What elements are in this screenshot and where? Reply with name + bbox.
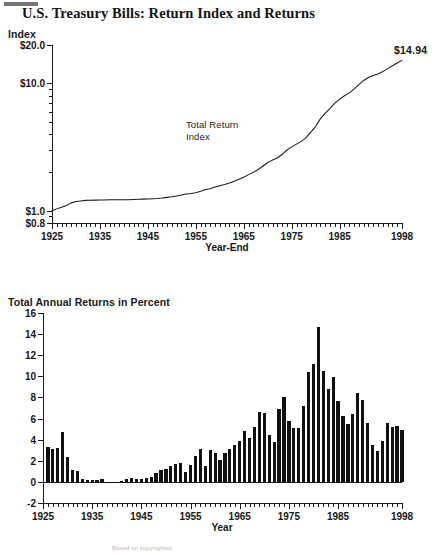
line-x-minor-tick <box>368 223 369 227</box>
bar-x-minor-tick <box>299 503 300 507</box>
bar-x-tick-label: 1975 <box>278 511 300 522</box>
bar <box>135 479 138 482</box>
line-y-minor-tick <box>49 150 52 151</box>
bar-y-tick <box>38 461 43 462</box>
bar <box>238 441 241 482</box>
bar-y-tick-label: 2 <box>30 455 36 466</box>
bar-x-minor-tick <box>77 503 78 507</box>
line-x-minor-tick <box>273 223 274 227</box>
line-x-minor-tick <box>162 223 163 227</box>
end-value-label: $14.94 <box>394 44 427 56</box>
line-x-tick <box>100 223 101 229</box>
bar-x-minor-tick <box>264 503 265 507</box>
line-x-minor-tick <box>220 223 221 227</box>
bar-x-minor-tick <box>323 503 324 507</box>
line-x-minor-tick <box>86 223 87 227</box>
bar <box>361 400 364 482</box>
bar-x-tick-label: 1985 <box>327 511 349 522</box>
bar <box>292 428 295 482</box>
bar <box>194 456 197 482</box>
bar <box>395 426 398 482</box>
bar-x-minor-tick <box>112 503 113 507</box>
bar-x-tick <box>43 503 44 509</box>
footnote: Based on copyrighted <box>112 545 442 554</box>
line-x-minor-tick <box>287 223 288 227</box>
line-y-tick-label: $10.0 <box>20 78 45 89</box>
bar <box>391 427 394 482</box>
bar <box>199 449 202 482</box>
bar <box>248 438 251 482</box>
bar-y-tick-label: 16 <box>25 308 36 319</box>
line-x-tick <box>148 223 149 229</box>
bar-x-minor-tick <box>205 503 206 507</box>
bar-x-minor-tick <box>151 503 152 507</box>
line-x-minor-tick <box>110 223 111 227</box>
bar <box>105 482 108 483</box>
bar-x-tick-label: 1925 <box>32 511 54 522</box>
bar <box>66 457 69 482</box>
bar-x-minor-tick <box>304 503 305 507</box>
line-x-minor-tick <box>277 223 278 227</box>
bar-x-minor-tick <box>200 503 201 507</box>
line-x-minor-tick <box>258 223 259 227</box>
line-x-tick <box>402 223 403 229</box>
line-x-tick <box>340 223 341 229</box>
bar-x-minor-tick <box>250 503 251 507</box>
line-x-minor-tick <box>143 223 144 227</box>
bar <box>214 453 217 482</box>
bar-x-minor-tick <box>225 503 226 507</box>
line-x-minor-tick <box>177 223 178 227</box>
line-x-tick-label: 1965 <box>233 231 255 242</box>
bar <box>86 480 89 482</box>
bar <box>209 450 212 482</box>
bar <box>317 327 320 482</box>
bar-y-tick-label: 4 <box>30 434 36 445</box>
line-x-tick-label: 1975 <box>281 231 303 242</box>
bar <box>336 401 339 482</box>
line-y-minor-tick <box>49 96 52 97</box>
bar <box>76 471 79 482</box>
line-x-minor-tick <box>359 223 360 227</box>
line-x-tick-label: 1935 <box>89 231 111 242</box>
line-x-minor-tick <box>349 223 350 227</box>
bar-x-tick-label: 1935 <box>81 511 103 522</box>
bar-x-minor-tick <box>132 503 133 507</box>
bar-x-minor-tick <box>161 503 162 507</box>
line-x-minor-tick <box>71 223 72 227</box>
bar-x-minor-tick <box>245 503 246 507</box>
bar <box>341 416 344 481</box>
bar <box>228 449 231 482</box>
bar-y-tick <box>38 334 43 335</box>
bar-y-tick <box>38 313 43 314</box>
line-x-axis-title: Year-End <box>205 242 248 253</box>
line-x-minor-tick <box>157 223 158 227</box>
bar <box>400 430 403 482</box>
line-x-minor-tick <box>191 223 192 227</box>
bar-x-tick <box>141 503 142 509</box>
line-x-minor-tick <box>316 223 317 227</box>
bar-x-minor-tick <box>210 503 211 507</box>
bar <box>243 431 246 482</box>
line-x-minor-tick <box>306 223 307 227</box>
bar-x-tick <box>191 503 192 509</box>
line-x-minor-tick <box>95 223 96 227</box>
bar-x-tick <box>402 503 403 509</box>
line-x-minor-tick <box>297 223 298 227</box>
bar-plot-area: -202468101214161925193519451955196519751… <box>43 313 402 503</box>
bar-y-tick-label: 10 <box>25 371 36 382</box>
line-x-tick-label: 1955 <box>185 231 207 242</box>
bar <box>189 465 192 482</box>
bar-x-minor-tick <box>348 503 349 507</box>
line-y-minor-tick <box>49 89 52 90</box>
line-x-tick <box>196 223 197 229</box>
bar-x-minor-tick <box>63 503 64 507</box>
return-index-chart: Index $20.0$10.0$1.0$0.81925193519451955… <box>0 28 446 260</box>
bar <box>91 480 94 482</box>
bar <box>351 414 354 482</box>
bar-x-minor-tick <box>195 503 196 507</box>
bar-x-minor-tick <box>186 503 187 507</box>
bar-y-tick-label: 12 <box>25 350 36 361</box>
line-x-tick-label: 1985 <box>329 231 351 242</box>
bar <box>120 481 123 482</box>
line-x-minor-tick <box>119 223 120 227</box>
